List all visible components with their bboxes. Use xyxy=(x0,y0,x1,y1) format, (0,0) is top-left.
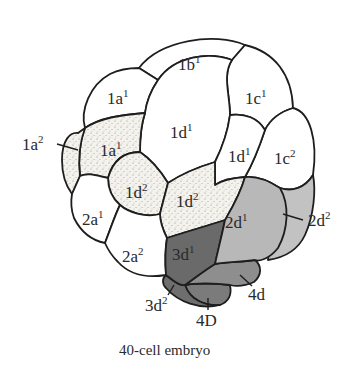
embryo-diagram: 1b1 1a1 1c1 1d1 1a1 1d1 1c2 1d2 1d2 2a1 … xyxy=(0,0,359,387)
callout-2d2: 2d2 xyxy=(308,209,331,230)
callout-3d2: 3d2 xyxy=(145,294,168,315)
figure-caption: 40-cell embryo xyxy=(119,342,210,358)
callout-4D: 4D xyxy=(196,311,217,330)
callout-1a2: 1a2 xyxy=(22,133,44,154)
callout-4d: 4d xyxy=(248,285,266,304)
